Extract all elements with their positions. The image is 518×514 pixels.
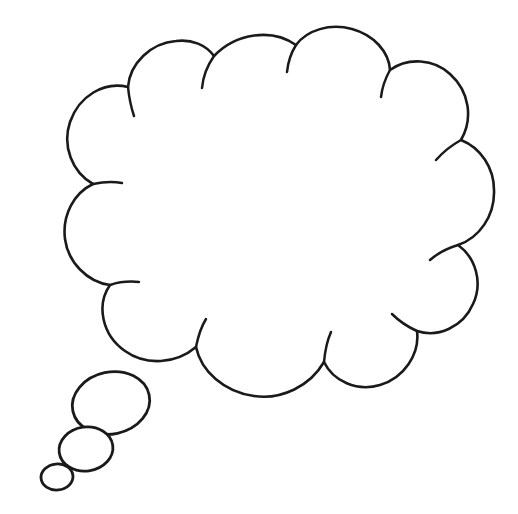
- thought-bubble-illustration: [0, 0, 518, 514]
- tail-bubble-small: [40, 463, 74, 492]
- drawing-canvas: [0, 0, 518, 514]
